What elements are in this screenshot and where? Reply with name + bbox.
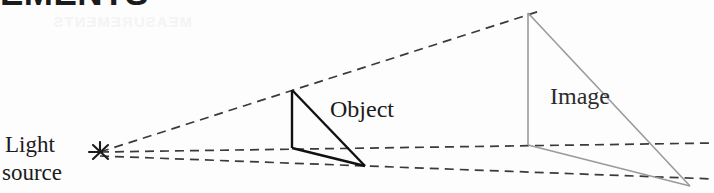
ray-upper-dashed [100,11,540,152]
ray-middle-dashed [100,143,714,152]
ray-lower-dashed [100,156,714,179]
projection-diagram: Light source Object Image [0,0,714,193]
image-label: Image [550,83,610,109]
figure-container: MEASUREMENTS EMENTS Ligh [0,0,714,193]
object-label: Object [330,96,394,122]
light-source-label-line2: source [2,160,62,185]
light-source-label-line1: Light [5,132,55,157]
